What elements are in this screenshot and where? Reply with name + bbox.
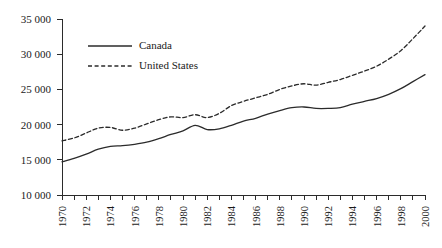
- x-tick-label: 2000: [420, 206, 431, 227]
- x-tick-label: 1974: [105, 205, 116, 227]
- line-chart: 10 00015 00020 00025 00030 00035 000 197…: [0, 0, 442, 248]
- x-tick-label: 1994: [347, 205, 358, 227]
- y-tick-label: 15 000: [21, 154, 52, 166]
- chart-legend: CanadaUnited States: [88, 39, 198, 71]
- legend-label-canada: Canada: [139, 39, 172, 51]
- x-axis-tick-marks: [62, 195, 425, 200]
- chart-container: 10 00015 00020 00025 00030 00035 000 197…: [0, 0, 442, 248]
- x-tick-label: 1984: [226, 205, 237, 227]
- y-tick-label: 10 000: [21, 189, 52, 201]
- x-tick-label: 1976: [130, 206, 141, 227]
- x-tick-label: 1980: [178, 206, 189, 227]
- x-tick-label: 1988: [275, 206, 286, 227]
- y-axis-tick-labels: 10 00015 00020 00025 00030 00035 000: [21, 13, 52, 201]
- x-tick-label: 1986: [251, 206, 262, 227]
- x-tick-label: 1970: [57, 206, 68, 227]
- x-axis-tick-labels: 1970197219741976197819801982198419861988…: [57, 205, 431, 227]
- x-tick-label: 1998: [396, 206, 407, 227]
- x-tick-label: 1992: [323, 206, 334, 227]
- y-tick-label: 25 000: [21, 83, 52, 95]
- x-tick-label: 1978: [154, 206, 165, 227]
- y-axis-tick-marks: [57, 19, 62, 195]
- y-tick-label: 20 000: [21, 119, 52, 131]
- x-tick-label: 1996: [372, 206, 383, 227]
- x-tick-label: 1990: [299, 206, 310, 227]
- x-tick-label: 1982: [202, 206, 213, 227]
- y-tick-label: 30 000: [21, 48, 52, 60]
- x-tick-label: 1972: [81, 206, 92, 227]
- y-tick-label: 35 000: [21, 13, 52, 25]
- legend-label-united-states: United States: [139, 59, 198, 71]
- series-line-united-states: [62, 26, 425, 141]
- series-line-canada: [62, 75, 425, 162]
